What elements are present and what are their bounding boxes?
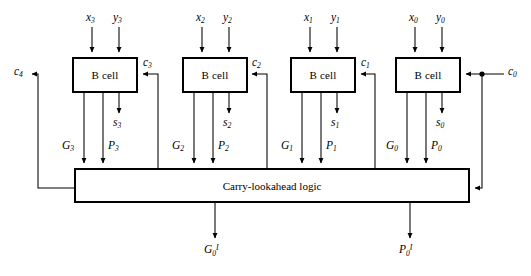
- b-cell-0-label: B cell: [414, 69, 441, 81]
- label-p3: P3: [108, 140, 119, 153]
- label-p0: P0: [431, 140, 442, 153]
- label-c4-carry-out: c4: [14, 66, 23, 79]
- label-y1: y1: [331, 12, 340, 25]
- label-s0: s0: [436, 117, 444, 130]
- wire-c4-output: [32, 74, 74, 188]
- label-s3: s3: [113, 117, 121, 130]
- b-cell-0[interactable]: B cell: [395, 57, 461, 93]
- b-cell-3[interactable]: B cell: [72, 57, 138, 93]
- label-p2: P2: [218, 140, 229, 153]
- label-g1: G1: [281, 140, 293, 153]
- label-x0: x0: [409, 12, 418, 25]
- wiring-layer: [0, 0, 531, 276]
- label-c1: c1: [361, 57, 370, 70]
- wire-c0-to-cla: [475, 74, 482, 188]
- junction-dot-c0: [479, 71, 484, 76]
- label-s2: s2: [223, 117, 231, 130]
- label-c2: c2: [252, 57, 261, 70]
- label-group-propagate: P0I: [399, 244, 412, 257]
- b-cell-2-label: B cell: [201, 69, 228, 81]
- carry-lookahead-logic-box[interactable]: Carry-lookahead logic: [74, 168, 470, 203]
- label-x2: x2: [196, 12, 205, 25]
- label-p1: P1: [326, 140, 337, 153]
- wire-c1-feedback: [361, 74, 375, 168]
- b-cell-1-label: B cell: [309, 69, 336, 81]
- label-group-generate: G0I: [204, 244, 219, 257]
- b-cell-3-label: B cell: [91, 69, 118, 81]
- wire-c2-feedback: [252, 74, 267, 168]
- label-g3: G3: [62, 140, 74, 153]
- label-g0: G0: [386, 140, 398, 153]
- label-y2: y2: [223, 12, 232, 25]
- b-cell-2[interactable]: B cell: [182, 57, 248, 93]
- wire-c3-feedback: [143, 74, 158, 168]
- label-x1: x1: [304, 12, 313, 25]
- label-s1: s1: [331, 117, 339, 130]
- label-c3: c3: [143, 57, 152, 70]
- b-cell-1[interactable]: B cell: [290, 57, 356, 93]
- carry-lookahead-adder-diagram: B cell B cell B cell B cell Carry-lookah…: [0, 0, 531, 276]
- label-c0-carry-in: c0: [508, 66, 517, 79]
- label-y0: y0: [436, 12, 445, 25]
- label-x3: x3: [86, 12, 95, 25]
- carry-lookahead-logic-label: Carry-lookahead logic: [223, 180, 322, 192]
- label-y3: y3: [113, 12, 122, 25]
- label-g2: G2: [172, 140, 184, 153]
